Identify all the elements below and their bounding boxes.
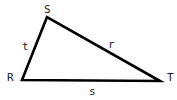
- triangle-rst: [22, 17, 160, 81]
- vertex-label-r: R: [7, 71, 14, 84]
- side-label-s: s: [89, 85, 96, 98]
- side-label-r: r: [108, 38, 115, 51]
- triangle-diagram: S R T t r s: [0, 0, 177, 100]
- side-label-t: t: [22, 40, 29, 53]
- vertex-label-t: T: [167, 71, 174, 84]
- vertex-label-s: S: [44, 3, 51, 16]
